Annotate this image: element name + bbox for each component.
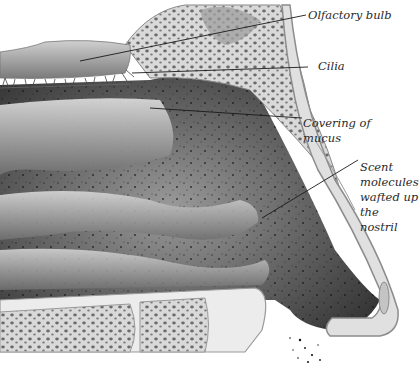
label-covering-of-mucus: Covering of mucus <box>303 116 371 146</box>
label-mucus-line-1: Covering of <box>303 116 371 131</box>
label-cilia: Cilia <box>318 59 345 74</box>
label-scent-line-1: Scent <box>360 160 420 175</box>
palate-bone <box>0 288 266 352</box>
label-mucus-line-2: mucus <box>303 131 371 146</box>
label-scent-line-2: molecules <box>360 175 420 190</box>
scent-molecules <box>289 337 321 363</box>
label-scent-line-3: wafted up <box>360 190 420 205</box>
nose-cross-section-illustration <box>0 0 420 374</box>
nasal-anatomy-diagram: Olfactory bulb Cilia Covering of mucus S… <box>0 0 420 374</box>
olfactory-bulb-shape <box>0 41 130 79</box>
label-olfactory-bulb: Olfactory bulb <box>308 8 392 23</box>
label-scent-molecules: Scent molecules wafted up the nostril <box>360 160 420 235</box>
label-scent-line-4: the nostril <box>360 205 420 235</box>
